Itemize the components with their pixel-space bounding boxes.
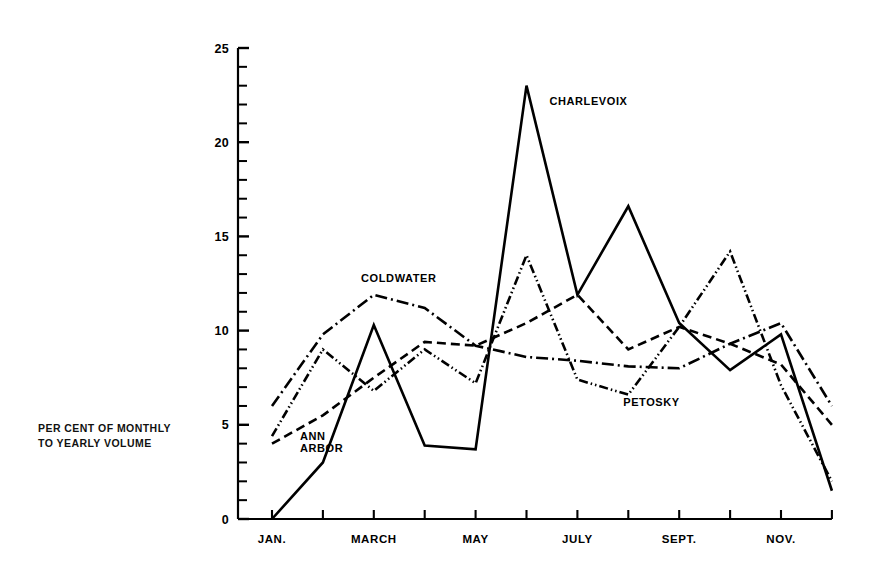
x-axis-tick-label: JAN.	[258, 533, 287, 545]
series-label-ann-arbor: ANNARBOR	[300, 430, 343, 455]
y-axis-tick-label: 15	[214, 230, 229, 244]
y-axis-caption-line-1: PER CENT OF MONTHLY	[38, 421, 208, 436]
series-line-ann-arbor	[272, 295, 832, 444]
series-line-petosky	[272, 251, 832, 481]
series-label-coldwater: COLDWATER	[361, 272, 436, 284]
series-lines	[272, 86, 832, 519]
x-axis-tick-label: SEPT.	[662, 533, 697, 545]
series-label-line: COLDWATER	[361, 272, 436, 284]
series-label-line: PETOSKY	[623, 396, 680, 408]
line-chart-plot: 0510152025JAN.MARCHMAYJULYSEPT.NOV. CHAR…	[0, 0, 874, 583]
series-line-charlevoix	[272, 86, 832, 519]
series-label-line: CHARLEVOIX	[549, 95, 627, 107]
y-axis-caption-line-2: TO YEARLY VOLUME	[38, 436, 208, 451]
x-axis-tick-label: JULY	[562, 533, 593, 545]
chart-figure: PER CENT OF MONTHLY TO YEARLY VOLUME 051…	[0, 0, 874, 583]
y-axis-tick-label: 10	[214, 324, 229, 338]
series-label-petosky: PETOSKY	[623, 396, 680, 408]
x-axis-tick-label: MAY	[462, 533, 488, 545]
x-axis-tick-label: MARCH	[351, 533, 397, 545]
y-axis-tick-label: 0	[222, 513, 229, 527]
y-axis-tick-label: 25	[214, 42, 229, 56]
y-axis-caption: PER CENT OF MONTHLY TO YEARLY VOLUME	[38, 421, 208, 450]
series-label-charlevoix: CHARLEVOIX	[549, 95, 627, 107]
series-label-line: ANN	[300, 430, 326, 442]
y-axis-tick-label: 5	[222, 418, 229, 432]
series-label-line: ARBOR	[300, 442, 343, 454]
y-axis-tick-label: 20	[214, 136, 229, 150]
x-axis-tick-label: NOV.	[766, 533, 795, 545]
series-annotations: CHARLEVOIXCOLDWATERANNARBORPETOSKY	[300, 95, 680, 455]
